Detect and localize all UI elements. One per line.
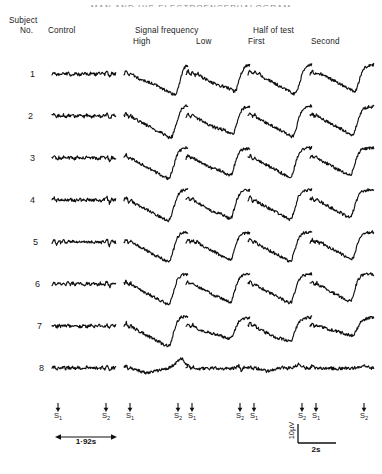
column-header-first: First [248,37,265,46]
figure-panel: MAN AND HIS ELECTROENCEPHALOGRAM Subject… [0,0,382,474]
column-header-second: Second [311,37,340,46]
stimulus-label-s1-col3: S1 [188,411,196,420]
subject-label-3: 3 [30,153,35,163]
stimulus-label-s2-col4: S2 [298,411,306,420]
running-head: MAN AND HIS ELECTROENCEPHALOGRAM [0,0,382,7]
waveform-trace [186,273,250,303]
stimulus-label-s1-col1: S1 [54,411,62,420]
waveform-trace [52,113,116,118]
waveform-trace [186,64,250,92]
running-head-text: MAN AND HIS ELECTROENCEPHALOGRAM [91,3,292,7]
waveform-trace [248,231,312,262]
waveform-trace [52,239,116,246]
subject-header-line1: Subject [9,16,37,25]
subject-header-line2: No. [20,26,33,35]
waveform-trace [248,64,312,95]
subject-label-2: 2 [28,111,33,121]
subject-label-8: 8 [39,363,44,373]
waveform-trace [248,189,312,221]
waveform-trace [52,156,116,162]
waveform-trace [124,189,188,222]
stimulus-label-s2-col5: S2 [360,411,368,420]
waveform-trace [248,273,312,304]
stimulus-label-s1-col2: S1 [126,411,134,420]
amplitude-scale-label: 10µV [287,419,296,443]
time-scale-label: 2s [296,445,336,454]
waveform-trace [124,232,188,263]
waveform-trace [310,147,374,176]
waveform-trace [124,358,188,374]
subject-label-4: 4 [30,195,35,205]
subject-label-6: 6 [35,279,40,289]
stimulus-label-s1-col4: S1 [250,411,258,420]
interval-label: 1·92s [55,437,117,446]
waveform-trace [124,65,188,95]
waveform-trace [186,148,250,176]
column-group-half-of-test: Half of test [253,26,294,35]
waveform-trace [310,273,374,302]
subject-label-7: 7 [37,321,42,331]
waveform-trace [186,232,250,261]
waveform-trace [310,189,374,218]
waveform-trace [52,71,116,77]
stimulus-label-s1-col5: S1 [312,411,320,420]
waveform-trace [52,324,116,329]
subject-label-5: 5 [33,237,38,247]
waveform-trace [310,63,374,92]
waveform-trace [310,316,374,336]
waveform-trace [310,105,374,136]
stimulus-label-s2-col1: S2 [102,411,110,420]
interval-indicator: 1·92s [55,429,117,449]
waveform-trace [186,317,250,339]
waveform-trace [186,106,250,135]
waveform-trace [52,196,116,204]
waveform-trace [310,231,374,260]
waveform-trace [124,105,188,139]
subject-label-1: 1 [30,69,35,79]
waveform-trace [124,315,188,346]
waveform-trace [248,147,312,178]
waveform-trace [124,147,188,180]
waveform-trace [52,281,116,287]
column-header-high: High [133,37,150,46]
column-group-signal-frequency: Signal frequency [135,26,198,35]
waveform-trace [186,189,250,219]
waveform-trace [248,105,312,138]
stimulus-label-s2-col2: S2 [174,411,182,420]
waveform-trace [248,316,312,342]
waveform-trace [310,365,374,370]
waveform-trace [52,365,116,370]
waveform-trace [124,273,188,305]
waveform-trace [248,363,312,373]
column-header-control: Control [48,26,75,35]
column-header-low: Low [196,37,211,46]
waveform-trace [186,364,250,371]
stimulus-label-s2-col3: S2 [236,411,244,420]
calibration-scale-bar: 10µV 2s [284,424,354,460]
